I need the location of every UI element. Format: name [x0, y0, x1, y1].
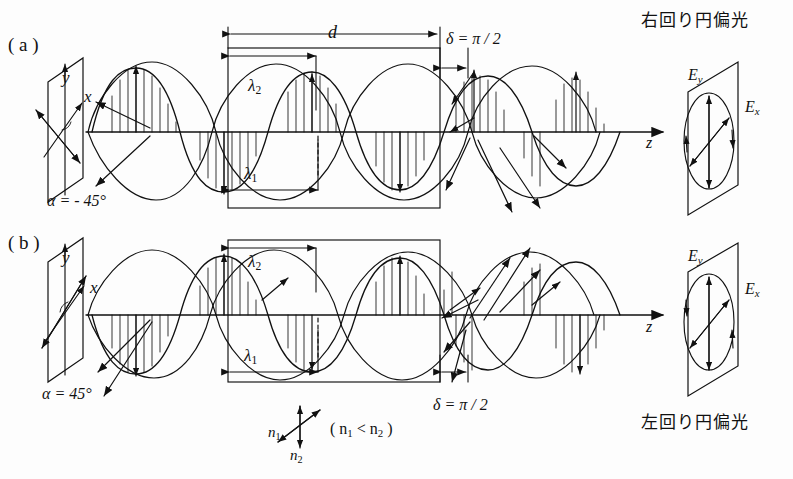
panel-a-hatching: [112, 68, 604, 192]
panel-a-wave-transverse: [92, 68, 620, 192]
panel-b-y-label: y: [62, 248, 70, 268]
panel-a-alpha-label: α = - 45°: [47, 192, 106, 210]
panel-b-tag: ( b ): [8, 232, 40, 254]
panel-a-lambda1-label: λ1: [244, 164, 257, 185]
panel-a-Ey-label: Ey: [688, 66, 703, 85]
panel-a-y-label: y: [62, 68, 70, 88]
panel-b-lambda1-label: λ1: [244, 346, 257, 367]
panel-a-delta-label: δ = π / 2: [446, 30, 501, 48]
panel-a-Ex-label: Ex: [745, 98, 760, 117]
figure-canvas: ( a ) y x α = - 45° d δ = π / 2 λ2 λ1 z …: [0, 0, 793, 479]
index-cross: [278, 406, 320, 448]
panel-a-tag: ( a ): [8, 34, 39, 56]
index-n2-label: n2: [290, 447, 303, 465]
panel-b-z-label: z: [646, 318, 652, 336]
panel-b-dim-lambda2: [230, 248, 316, 292]
panel-b-x-label: x: [90, 278, 98, 298]
index-relation-label: ( n1 < n2 ): [330, 420, 393, 439]
left-circular-polarization-caption: 左回り円偏光: [641, 408, 749, 433]
right-circular-polarization-caption: 右回り円偏光: [641, 6, 749, 31]
panel-b-alpha-label: α = 45°: [42, 385, 92, 403]
panel-a-input-plane: [36, 58, 83, 202]
panel-b-Ey-label: Ey: [688, 247, 703, 266]
panel-a-d-label: d: [328, 22, 337, 43]
panel-a-z-label: z: [646, 134, 652, 152]
index-n1-label: n1: [268, 424, 281, 442]
panel-a-dim-delta: [440, 48, 468, 78]
panel-a-lambda2-label: λ2: [248, 76, 261, 97]
panel-a-wave-slant: [88, 62, 600, 200]
panel-a-x-label: x: [84, 87, 92, 107]
panel-b-lambda2-label: λ2: [248, 252, 261, 273]
panel-b-delta-label: δ = π / 2: [433, 396, 488, 414]
panel-b-Ex-label: Ex: [745, 280, 760, 299]
